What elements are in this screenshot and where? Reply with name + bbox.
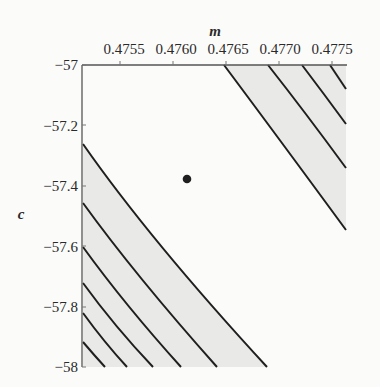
y-tick-labels: −57 −57.2 −57.4 −57.6 −57.8 −58 [43,57,78,375]
contour-chart: 0.4755 0.4760 0.4765 0.4770 0.4775 −57 −… [0,0,380,387]
x-tick-label: 0.4775 [311,41,352,57]
x-tick-label: 0.4765 [207,41,248,57]
shaded-region-lower-left [83,144,267,367]
y-tick-label: −57.4 [43,178,78,194]
y-tick-label: −57.8 [43,299,78,315]
y-axis-label: c [18,206,25,222]
y-tick-label: −57 [55,57,79,73]
x-tick-label: 0.4760 [155,41,196,57]
y-tick-label: −57.6 [43,239,78,255]
y-tick-label: −57.2 [43,118,78,134]
x-axis-label: m [209,23,221,39]
best-fit-point-marker [183,175,192,184]
x-tick-label: 0.4755 [103,41,144,57]
x-tick-labels: 0.4755 0.4760 0.4765 0.4770 0.4775 [103,41,352,57]
shaded-regions [83,65,346,367]
x-tick-label: 0.4770 [259,41,300,57]
y-tick-label: −58 [55,359,78,375]
